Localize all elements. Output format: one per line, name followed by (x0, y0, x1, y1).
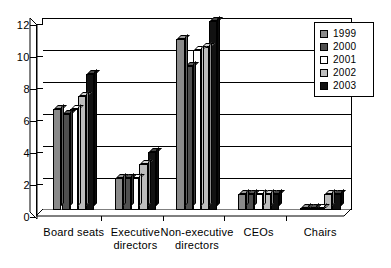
bar-chart: 024681012 Board seatsExecutivedirectorsN… (0, 0, 391, 268)
bar-side-face (217, 16, 220, 206)
bar-side-face (70, 109, 73, 206)
x-tick-label-line: directors (175, 239, 219, 251)
legend-label: 2001 (333, 54, 356, 65)
bar (238, 194, 246, 210)
x-tick-mark (101, 216, 102, 221)
plot-area (36, 18, 352, 216)
bar (316, 208, 324, 210)
y-axis-line (29, 14, 43, 224)
bar-side-face (279, 189, 282, 206)
bar (308, 208, 316, 210)
bar (53, 109, 61, 210)
bar-side-face (201, 45, 204, 206)
bar-side-face (78, 104, 81, 206)
legend-item: 1999 (320, 27, 369, 40)
legend-swatch (320, 56, 328, 64)
bar-groups (43, 18, 351, 210)
bar-side-face (131, 173, 134, 206)
legend-swatch (320, 82, 328, 90)
bar-group (166, 18, 228, 210)
bar-side-face (209, 42, 212, 206)
bar-side-face (148, 159, 151, 206)
legend-item: 2000 (320, 40, 369, 53)
legend-label: 2003 (333, 80, 356, 91)
y-tick-label: 10 (17, 51, 30, 63)
x-tick-label-line: directors (113, 239, 157, 251)
bar-group (228, 18, 290, 210)
bar-side-face (156, 147, 159, 206)
bar-group (105, 18, 167, 210)
bar-group (43, 18, 105, 210)
legend-swatch (320, 30, 328, 38)
bar-side-face (193, 61, 196, 206)
bar (115, 178, 123, 210)
legend-item: 2003 (320, 79, 369, 92)
x-tick-mark (224, 216, 225, 221)
legend-swatch (320, 43, 328, 51)
bar-side-face (86, 91, 89, 206)
bar-side-face (341, 189, 344, 206)
legend-item: 2001 (320, 53, 369, 66)
x-tick-mark (286, 216, 287, 221)
legend-item: 2002 (320, 66, 369, 79)
x-axis: Board seatsExecutivedirectorsNon-executi… (36, 222, 356, 266)
plot-floor (36, 209, 352, 216)
x-tick-mark (163, 216, 164, 221)
x-tick-label: Chairs (275, 226, 365, 239)
bar (300, 208, 308, 210)
bar-side-face (123, 173, 126, 206)
bar-side-face (271, 189, 274, 206)
y-tick-label: 12 (17, 19, 30, 31)
y-axis: 024681012 (0, 0, 30, 268)
legend-label: 2002 (333, 67, 356, 78)
legend: 19992000200120022003 (314, 22, 374, 97)
bar-side-face (263, 189, 266, 206)
floor-polygon (36, 209, 352, 217)
bar-side-face (185, 34, 188, 206)
bar-side-face (94, 69, 97, 206)
legend-label: 2000 (333, 41, 356, 52)
legend-swatch (320, 69, 328, 77)
bar (176, 39, 184, 210)
legend-label: 1999 (333, 28, 356, 39)
